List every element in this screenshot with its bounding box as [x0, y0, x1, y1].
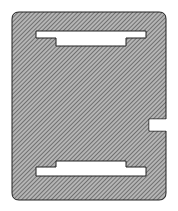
cross-section-drawing	[0, 0, 178, 211]
right-notch	[150, 120, 167, 131]
diagram-canvas: hatched-cross-section	[0, 0, 178, 211]
